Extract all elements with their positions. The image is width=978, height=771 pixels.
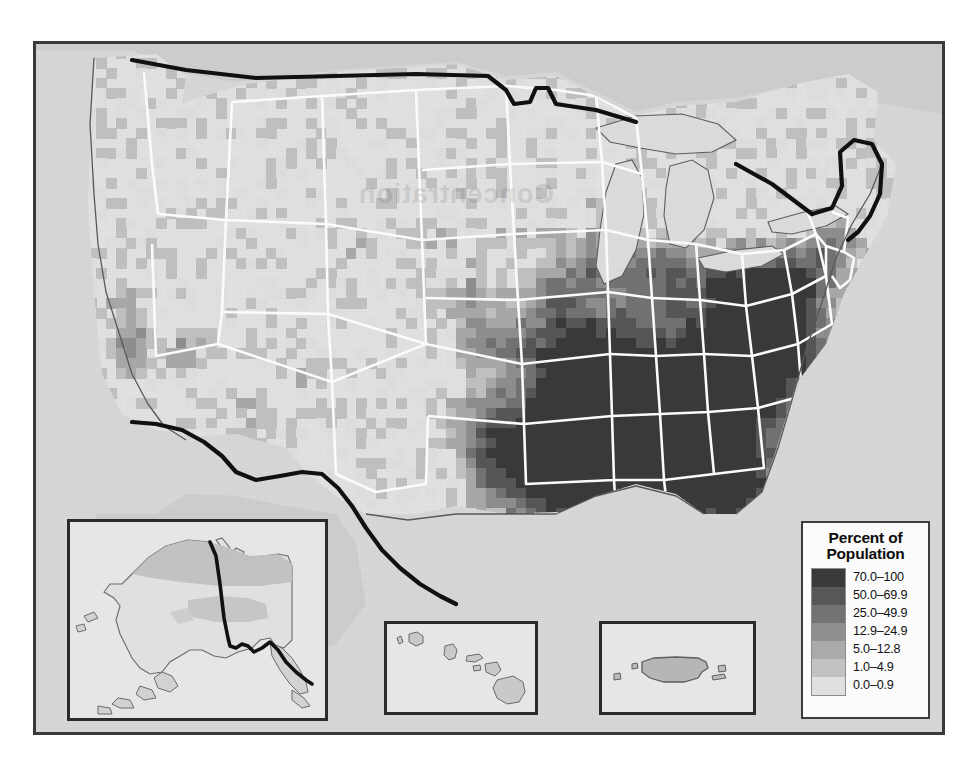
map-frame: Concentration — [33, 41, 945, 735]
hawaii-inset-geography — [387, 624, 535, 712]
legend-color-ramp — [811, 568, 846, 696]
legend-label-0: 70.0–100 — [853, 568, 920, 586]
legend-title-line-1: Percent of — [811, 530, 920, 546]
map-page: Concentration — [0, 0, 978, 771]
legend-label-6: 0.0–0.9 — [853, 676, 920, 694]
legend-swatch-4 — [812, 641, 845, 659]
legend-swatch-0 — [812, 569, 845, 587]
legend-label-4: 5.0–12.8 — [853, 640, 920, 658]
legend-label-3: 12.9–24.9 — [853, 622, 920, 640]
legend-swatch-1 — [812, 587, 845, 605]
legend-body: 70.0–10050.0–69.925.0–49.912.9–24.95.0–1… — [811, 568, 920, 696]
legend-swatch-5 — [812, 659, 845, 677]
puerto-rico-inset-map — [599, 621, 756, 715]
legend-swatch-3 — [812, 623, 845, 641]
map-legend: Percent of Population 70.0–10050.0–69.92… — [801, 521, 930, 719]
legend-label-1: 50.0–69.9 — [853, 586, 920, 604]
alaska-inset-map — [67, 519, 328, 721]
legend-title-line-2: Population — [811, 546, 920, 562]
legend-label-5: 1.0–4.9 — [853, 658, 920, 676]
legend-title: Percent of Population — [811, 530, 920, 563]
hawaii-inset-map — [384, 621, 538, 715]
legend-label-2: 25.0–49.9 — [853, 604, 920, 622]
puerto-rico-inset-geography — [602, 624, 753, 712]
legend-swatch-6 — [812, 677, 845, 695]
legend-swatch-2 — [812, 605, 845, 623]
map-canvas: Concentration — [36, 44, 942, 732]
legend-label-column: 70.0–10050.0–69.925.0–49.912.9–24.95.0–1… — [853, 568, 920, 694]
alaska-inset-geography — [70, 522, 325, 718]
